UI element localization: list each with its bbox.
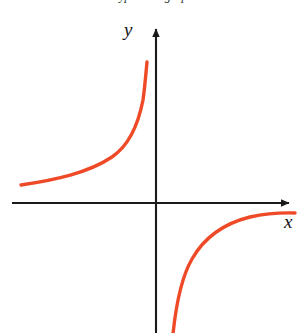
curve-branch-upper-left [21,62,147,185]
curve-branch-lower-right [173,213,295,333]
graph-figure: Hyperbola graph y x [0,0,304,333]
y-axis-label: y [124,20,132,39]
plot-canvas [0,0,304,333]
x-axis-label: x [284,212,292,231]
